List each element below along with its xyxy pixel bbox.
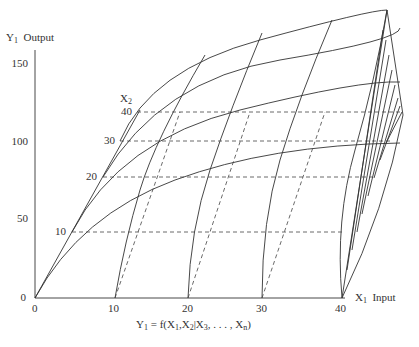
y-tick-150: 150 (2, 58, 28, 69)
y-subscript: 1 (14, 36, 18, 45)
x2-tick-10: 10 (55, 226, 66, 237)
y-symbol: Y (6, 31, 14, 43)
x1-tick-20: 20 (182, 303, 193, 314)
x1-tick-30: 30 (256, 303, 267, 314)
x1-symbol: X (355, 291, 363, 303)
curve-x2-30 (103, 28, 400, 177)
curve-x2-40 (120, 10, 387, 141)
x1-label-text: Input (372, 291, 395, 303)
formula-end: ) (247, 318, 251, 330)
x1-tick-40: 40 (335, 303, 346, 314)
curve-x1-20 (188, 33, 262, 298)
y-tick-50: 50 (2, 213, 28, 224)
x1-tick-10: 10 (108, 303, 119, 314)
y-axis-label: Y1 Output (6, 32, 54, 45)
formula-eq: = f(X (148, 318, 175, 330)
x2-tick-40: 40 (121, 106, 132, 117)
y-tick-0: 0 (0, 292, 26, 303)
production-function-formula: Y1 = f(X1,X2|X3, . . . , Xn) (136, 319, 251, 332)
right-face-hatching (342, 10, 403, 298)
formula-lhs: Y (136, 318, 144, 330)
x1-tick-0: 0 (32, 303, 38, 314)
dashed-grid (72, 112, 403, 298)
x1-axis-label: X1 Input (355, 292, 396, 305)
formula-bar: |X (194, 318, 204, 330)
curve-x1-10 (115, 55, 205, 298)
x2-symbol: X (120, 92, 128, 104)
x2-tick-30: 30 (104, 135, 115, 146)
x2-tick-20: 20 (86, 171, 97, 182)
y-tick-100: 100 (2, 136, 28, 147)
y-label-text: Output (23, 31, 54, 43)
x1-subscript: 1 (363, 296, 367, 305)
formula-dots: , . . . , X (208, 318, 243, 330)
formula-mid: ,X (179, 318, 190, 330)
